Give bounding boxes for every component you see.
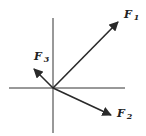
vector-f2-arrow xyxy=(53,88,111,115)
label-f2-subscript: 2 xyxy=(127,111,133,121)
label-f1-symbol: F xyxy=(124,8,132,21)
label-f2: F2 xyxy=(117,108,132,120)
force-diagram: F1 F2 F3 xyxy=(0,0,146,136)
vector-f1-arrow xyxy=(53,22,118,88)
label-f3-subscript: 3 xyxy=(44,54,50,64)
label-f1-subscript: 1 xyxy=(134,12,140,22)
vector-f3-arrow xyxy=(34,69,53,88)
label-f1: F1 xyxy=(124,9,139,21)
label-f2-symbol: F xyxy=(117,107,125,120)
label-f3-symbol: F xyxy=(34,50,42,63)
label-f3: F3 xyxy=(34,51,49,63)
